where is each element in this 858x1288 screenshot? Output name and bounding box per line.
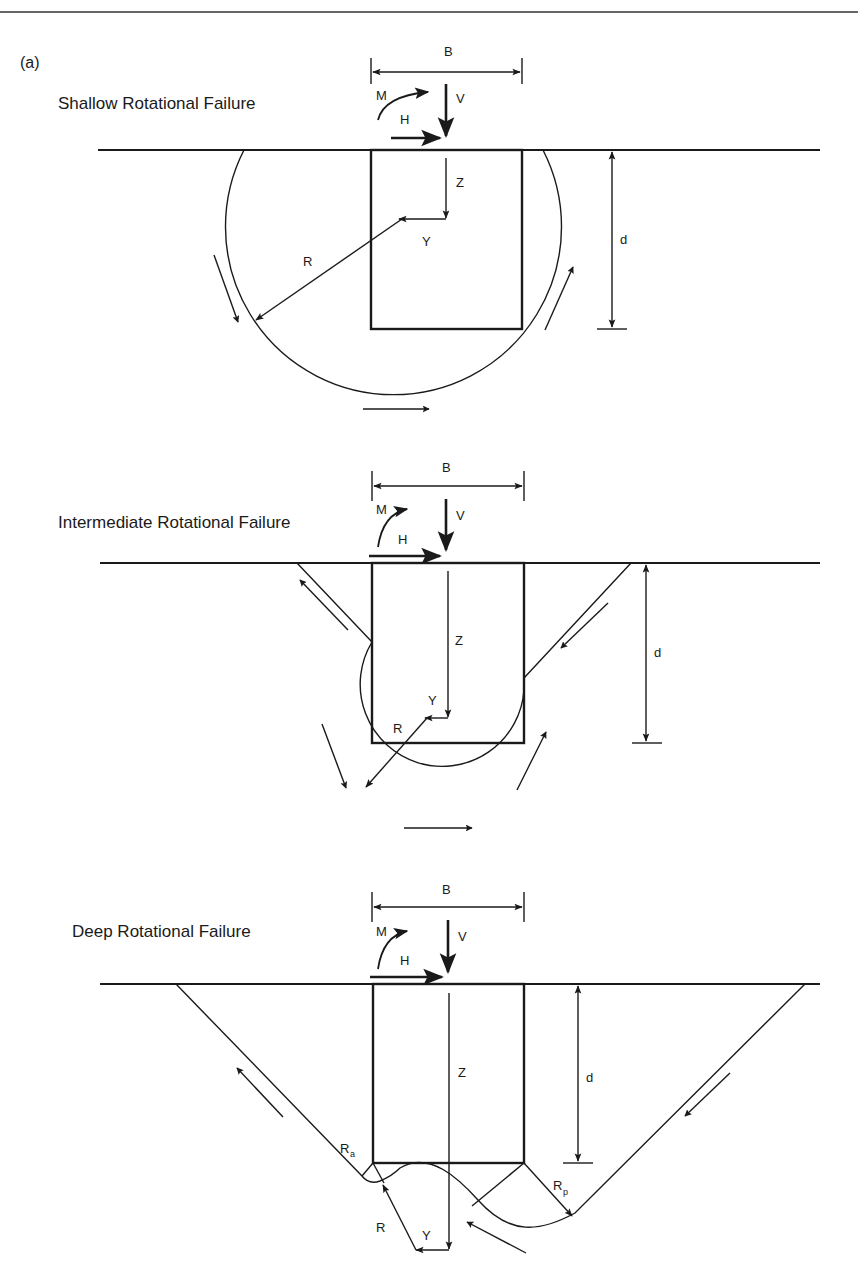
panel-deep-rotational-failure: Deep Rotational Failure B M V H R a R p xyxy=(72,882,820,1253)
svg-text:Y: Y xyxy=(428,693,437,708)
svg-text:B: B xyxy=(442,882,451,897)
depth-dimension-d: d xyxy=(597,152,627,329)
slip-arrow-icon xyxy=(561,603,608,648)
svg-text:H: H xyxy=(400,953,409,968)
svg-text:M: M xyxy=(376,924,387,939)
svg-text:V: V xyxy=(458,929,467,944)
panel-title: Deep Rotational Failure xyxy=(72,922,251,941)
diagram-canvas: (a) Shallow Rotational Failure B M V H Z… xyxy=(0,0,858,1288)
slip-arrow-icon xyxy=(237,1068,283,1117)
slip-arrow-icon xyxy=(685,1073,730,1116)
load-arrows: M V H xyxy=(370,920,467,977)
svg-text:M: M xyxy=(376,88,387,103)
svg-text:H: H xyxy=(398,532,407,547)
failure-surface xyxy=(226,150,562,395)
svg-text:R: R xyxy=(553,1178,562,1193)
svg-text:B: B xyxy=(442,460,451,475)
slip-arrow-icon xyxy=(517,732,546,790)
figure-failure-mechanisms: (a) Shallow Rotational Failure B M V H Z… xyxy=(0,0,858,1288)
panel-title: Intermediate Rotational Failure xyxy=(58,513,290,532)
svg-text:d: d xyxy=(620,232,627,247)
slip-arrow-icon xyxy=(214,255,238,322)
svg-text:R: R xyxy=(303,254,312,269)
svg-text:a: a xyxy=(350,1149,355,1159)
slip-arrow-icon xyxy=(322,724,346,788)
slip-arrow-icon xyxy=(545,267,573,330)
svg-text:R: R xyxy=(340,1141,349,1156)
svg-text:R: R xyxy=(393,721,402,736)
width-dimension-b: B xyxy=(372,460,524,501)
failure-surface xyxy=(297,563,631,766)
width-dimension-b: B xyxy=(372,882,524,922)
svg-text:H: H xyxy=(400,112,409,127)
svg-text:p: p xyxy=(563,1187,568,1197)
slip-arrow-icon xyxy=(300,580,348,630)
svg-text:d: d xyxy=(586,1070,593,1085)
svg-text:Z: Z xyxy=(456,175,464,190)
svg-text:B: B xyxy=(444,44,453,59)
depth-dimension-d: d xyxy=(563,986,593,1163)
panel-shallow-rotational-failure: Shallow Rotational Failure B M V H Z Y R xyxy=(58,44,820,409)
depth-dimension-d: d xyxy=(632,565,662,743)
svg-text:M: M xyxy=(376,502,387,517)
panel-intermediate-rotational-failure: Intermediate Rotational Failure B M V H … xyxy=(58,460,820,828)
svg-text:V: V xyxy=(456,508,465,523)
svg-text:Z: Z xyxy=(458,1065,466,1080)
load-arrows: M V H xyxy=(369,499,465,556)
panel-label: (a) xyxy=(20,54,40,71)
svg-text:Y: Y xyxy=(422,1228,431,1243)
svg-text:d: d xyxy=(654,645,661,660)
svg-text:Y: Y xyxy=(422,234,431,249)
svg-text:Z: Z xyxy=(455,633,463,648)
slip-arrow-icon xyxy=(467,1222,526,1253)
svg-text:V: V xyxy=(456,91,465,106)
svg-text:R: R xyxy=(376,1220,385,1235)
width-dimension-b: B xyxy=(371,44,522,84)
panel-title: Shallow Rotational Failure xyxy=(58,94,256,113)
load-arrows: M V H xyxy=(376,84,465,138)
